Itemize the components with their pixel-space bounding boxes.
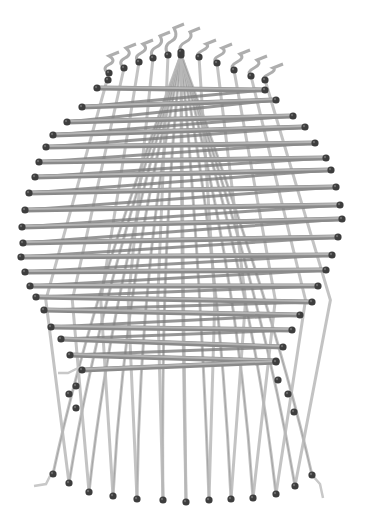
peg — [21, 206, 28, 213]
peg-highlight — [329, 168, 331, 170]
apex-peg — [177, 51, 184, 58]
peg — [21, 268, 28, 275]
peg-highlight — [107, 71, 109, 73]
peg-highlight — [232, 68, 234, 70]
peg-highlight — [184, 500, 186, 502]
peg-highlight — [122, 66, 124, 68]
peg — [284, 390, 291, 397]
peg — [334, 233, 341, 240]
peg — [104, 76, 111, 83]
peg — [327, 166, 334, 173]
peg — [261, 76, 268, 83]
peg-highlight — [34, 295, 36, 297]
peg-highlight — [263, 78, 265, 80]
peg-highlight — [330, 253, 332, 255]
peg — [249, 494, 256, 501]
peg — [195, 53, 202, 60]
peg — [19, 239, 26, 246]
peg-highlight — [340, 217, 342, 219]
peg-highlight — [316, 284, 318, 286]
peg-highlight — [281, 345, 283, 347]
peg-highlight — [290, 328, 292, 330]
peg-highlight — [161, 498, 163, 500]
peg-highlight — [197, 55, 199, 57]
peg — [78, 103, 85, 110]
peg-highlight — [106, 78, 108, 80]
peg — [274, 376, 281, 383]
peg — [227, 495, 234, 502]
peg — [25, 189, 32, 196]
peg-highlight — [336, 235, 338, 237]
peg — [72, 404, 79, 411]
peg — [18, 223, 25, 230]
peg — [301, 123, 308, 130]
peg-highlight — [87, 490, 89, 492]
peg — [109, 492, 116, 499]
peg-highlight — [95, 86, 97, 88]
peg-highlight — [207, 498, 209, 500]
peg — [308, 471, 315, 478]
woven-structure-render — [0, 0, 370, 519]
peg-highlight — [80, 368, 82, 370]
peg-highlight — [292, 410, 294, 412]
peg-highlight — [37, 160, 39, 162]
peg-highlight — [310, 300, 312, 302]
peg — [35, 158, 42, 165]
peg — [78, 366, 85, 373]
peg — [205, 496, 212, 503]
peg — [164, 51, 171, 58]
strand-tails — [34, 24, 323, 498]
peg-highlight — [23, 208, 25, 210]
peg — [182, 498, 189, 505]
peg — [93, 84, 100, 91]
peg-highlight — [291, 114, 293, 116]
peg — [261, 86, 268, 93]
peg — [85, 488, 92, 495]
side-tail — [312, 475, 323, 498]
peg-highlight — [137, 60, 139, 62]
peg-highlight — [51, 472, 53, 474]
peg-highlight — [166, 53, 168, 55]
peg-highlight — [310, 473, 312, 475]
peg — [272, 358, 279, 365]
side-tail — [34, 476, 50, 486]
peg — [66, 351, 73, 358]
peg-highlight — [334, 185, 336, 187]
peg-highlight — [59, 337, 61, 339]
peg — [32, 293, 39, 300]
peg — [291, 482, 298, 489]
peg-highlight — [324, 156, 326, 158]
peg — [308, 298, 315, 305]
peg — [296, 311, 303, 318]
peg-highlight — [49, 325, 51, 327]
peg — [149, 54, 156, 61]
peg-highlight — [286, 392, 288, 394]
top-tail — [180, 28, 200, 52]
peg-highlight — [298, 313, 300, 315]
peg — [279, 343, 286, 350]
peg — [311, 139, 318, 146]
peg-highlight — [293, 484, 295, 486]
peg — [288, 326, 295, 333]
peg — [336, 201, 343, 208]
peg-highlight — [27, 191, 29, 193]
peg — [338, 215, 345, 222]
peg-highlight — [80, 105, 82, 107]
peg — [322, 154, 329, 161]
peg-highlight — [67, 392, 69, 394]
peg-highlight — [74, 384, 76, 386]
peg-highlight — [313, 141, 315, 143]
peg — [17, 253, 24, 260]
peg-highlight — [151, 56, 153, 58]
peg-highlight — [338, 203, 340, 205]
peg-highlight — [276, 378, 278, 380]
peg — [289, 112, 296, 119]
peg-highlight — [42, 308, 44, 310]
peg — [314, 282, 321, 289]
peg — [120, 64, 127, 71]
peg-highlight — [135, 497, 137, 499]
peg — [40, 306, 47, 313]
peg — [322, 266, 329, 273]
peg-highlight — [67, 481, 69, 483]
peg-highlight — [28, 284, 30, 286]
